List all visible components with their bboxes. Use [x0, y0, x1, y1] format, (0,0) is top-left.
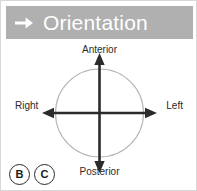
label-anterior: Anterior — [6, 45, 193, 55]
figure-badges: B C — [9, 164, 55, 185]
label-left: Left — [166, 101, 183, 111]
badge-c[interactable]: C — [34, 164, 55, 185]
panel-header: Orientation — [6, 6, 193, 39]
page-title: Orientation — [43, 12, 148, 33]
label-right: Right — [15, 101, 38, 111]
right-arrow-icon — [14, 14, 34, 32]
badge-b[interactable]: B — [9, 164, 30, 185]
orientation-panel: Orientation Anterior Posterior Right Lef… — [0, 0, 197, 191]
